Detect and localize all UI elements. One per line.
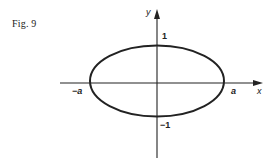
ellipse-plot [0,0,277,164]
tick-y-pos: 1 [162,32,167,41]
x-axis-label: x [257,87,262,96]
tick-x-pos: a [231,87,236,96]
y-axis-label: y [146,8,151,17]
y-axis-arrow-icon [154,9,160,19]
tick-x-neg: −a [72,87,82,96]
tick-y-neg: −1 [160,121,170,130]
